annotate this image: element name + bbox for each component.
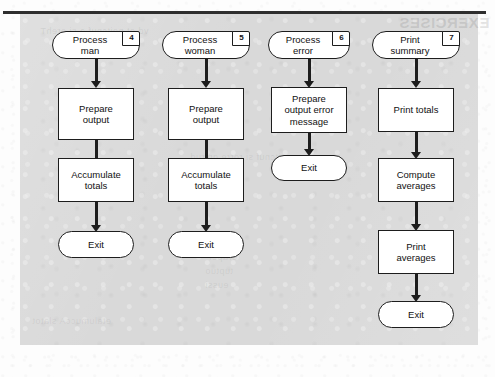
flow-node-label: Exit: [408, 309, 424, 321]
flow-node-entry-process-man: Process man 4: [52, 31, 140, 59]
flow-node-compute-averages: Compute averages: [378, 158, 454, 202]
flow-node-prepare-output-error-message: Prepare output error message: [271, 87, 347, 133]
flow-node-label: Process man: [73, 34, 107, 57]
flow-node-accumulate-totals-1: Accumulate totals: [58, 158, 134, 202]
flow-node-number-tag: 4: [122, 31, 140, 46]
flow-node-label: Process woman: [183, 34, 217, 57]
flow-node-print-averages: Print averages: [378, 230, 454, 274]
flow-node-exit-2: Exit: [168, 231, 244, 258]
flow-node-number-tag: 5: [232, 31, 250, 46]
flow-node-label: Accumulate totals: [71, 169, 121, 192]
flow-node-label: Prepare output: [79, 103, 113, 126]
flow-node-label: Print averages: [396, 241, 435, 264]
flow-node-accumulate-totals-2: Accumulate totals: [168, 158, 244, 202]
flow-node-exit-3: Exit: [271, 155, 347, 181]
flow-node-label: Exit: [88, 239, 104, 251]
flow-node-number-tag: 7: [442, 31, 460, 46]
flow-node-label: Exit: [198, 239, 214, 251]
flow-node-prepare-output-1: Prepare output: [58, 88, 134, 140]
flow-node-entry-print-summary: Print summary 7: [372, 31, 460, 59]
flow-node-label: Process error: [286, 34, 320, 57]
flow-node-label: Accumulate totals: [181, 169, 231, 192]
flow-node-number-tag: 6: [332, 31, 350, 46]
flow-node-label: Prepare output error message: [284, 93, 333, 128]
flow-node-exit-4: Exit: [378, 301, 454, 328]
flow-node-label: Exit: [301, 162, 317, 174]
flow-node-label: Prepare output: [189, 103, 223, 126]
flow-node-label: Print totals: [394, 104, 439, 116]
flow-node-entry-process-woman: Process woman 5: [162, 31, 250, 59]
flow-node-prepare-output-2: Prepare output: [168, 88, 244, 140]
flow-node-print-totals: Print totals: [378, 88, 454, 132]
scanned-page: EXERCISES vd ot noitcnuf a si erehT snoi…: [0, 0, 495, 377]
flow-node-entry-process-error: Process error 6: [268, 31, 350, 59]
flow-node-label: Compute averages: [396, 169, 435, 192]
flow-node-label: Print summary: [390, 34, 429, 57]
flow-node-exit-1: Exit: [58, 231, 134, 258]
